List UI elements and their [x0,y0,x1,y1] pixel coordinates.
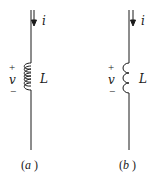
panel-a-caption-letter: a [25,158,31,172]
circuit-drawing [0,0,155,181]
panel-b-voltage-plus: + [108,62,114,73]
panel-b-caption-letter: b [123,158,129,172]
panel-b-voltage-minus: − [109,86,115,97]
panel-b-current-label: i [141,15,145,27]
panel-b-inductor-coil-icon [123,63,129,93]
panel-a-voltage-plus: + [9,62,15,73]
panel-b-inductance-label: L [139,73,147,85]
panel-a-voltage-minus: − [10,86,16,97]
panel-a-current-arrow-icon [32,10,37,26]
panel-a-inductor-coil-icon [24,63,31,90]
inductor-symbols-figure: i + v − L (a ) i + v − L (b ) [0,0,155,181]
panel-b-current-arrow-icon [131,10,136,26]
panel-a-circuit [24,10,36,150]
panel-a-current-label: i [42,15,46,27]
panel-b-circuit [123,10,136,150]
panel-a-caption: (a ) [21,159,38,171]
panel-a-inductance-label: L [40,73,48,85]
panel-b-caption: (b ) [119,159,136,171]
